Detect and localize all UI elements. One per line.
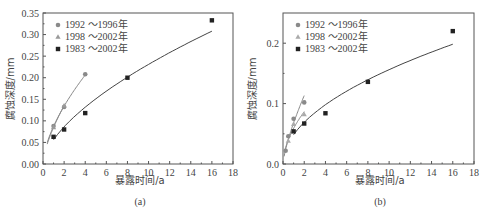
data-point-square — [62, 127, 66, 131]
x-tick-label: 12 — [165, 167, 175, 178]
x-tick-label: 2 — [302, 167, 307, 178]
x-tick-label: 18 — [469, 167, 479, 178]
y-tick-label: 0.05 — [22, 137, 40, 148]
panel-caption: (a) — [134, 196, 145, 208]
data-point-triangle — [295, 34, 300, 39]
x-axis-label: 暴露时间/a — [355, 174, 405, 186]
charts-figure: 0246810121416180.000.050.100.150.200.250… — [0, 0, 483, 217]
chart-panel-a: 0246810121416180.000.050.100.150.200.250… — [4, 8, 238, 209]
data-point-circle — [291, 116, 296, 121]
data-point-square — [125, 76, 129, 80]
data-point-triangle — [291, 121, 296, 126]
x-tick-label: 14 — [186, 167, 196, 178]
y-axis-label: 腐蚀深度/mm — [246, 58, 258, 121]
x-tick-label: 2 — [62, 167, 67, 178]
legend-entry: 1998 ～2002年 — [65, 30, 128, 42]
data-point-circle — [296, 23, 301, 28]
y-tick-label: 0.2 — [267, 38, 280, 49]
data-point-triangle — [55, 34, 60, 39]
data-point-square — [56, 47, 60, 51]
y-tick-label: 0.1 — [267, 98, 280, 109]
panel-caption: (b) — [374, 196, 386, 208]
x-tick-label: 6 — [344, 167, 349, 178]
data-point-square — [51, 135, 55, 139]
fit-curve — [294, 44, 453, 135]
x-tick-label: 12 — [405, 167, 415, 178]
legend-entry: 1992 ～1996年 — [65, 18, 128, 30]
x-tick-label: 16 — [207, 167, 217, 178]
data-point-square — [83, 111, 87, 115]
data-point-square — [302, 121, 306, 125]
data-point-square — [451, 29, 455, 33]
x-tick-label: 6 — [104, 167, 109, 178]
data-point-square — [366, 80, 370, 84]
y-tick-label: 0.25 — [22, 51, 40, 62]
data-point-square — [291, 129, 295, 133]
data-point-circle — [283, 148, 288, 153]
legend-entry: 1983 ～2002年 — [65, 42, 128, 54]
legend-entry: 1983 ～2002年 — [305, 42, 368, 54]
data-point-square — [323, 111, 327, 115]
x-tick-label: 0 — [281, 167, 286, 178]
x-tick-label: 4 — [323, 167, 328, 178]
y-tick-label: 0.0 — [267, 159, 280, 170]
data-point-circle — [83, 72, 88, 77]
data-point-square — [210, 18, 214, 22]
y-tick-label: 0.30 — [22, 29, 40, 40]
chart-panel-b: 0246810121416180.00.10.2暴露时间/a腐蚀深度/mm(b)… — [246, 13, 479, 208]
data-point-triangle — [286, 138, 291, 143]
x-axis-label: 暴露时间/a — [115, 174, 165, 186]
fit-curve — [47, 75, 85, 143]
y-tick-label: 0.35 — [22, 8, 40, 19]
y-tick-label: 0.20 — [22, 72, 40, 83]
y-tick-label: 0.00 — [22, 159, 40, 170]
data-point-square — [296, 47, 300, 51]
data-point-circle — [302, 100, 307, 105]
data-point-circle — [56, 23, 61, 28]
x-tick-label: 18 — [228, 167, 238, 178]
x-tick-label: 14 — [427, 167, 437, 178]
y-tick-label: 0.15 — [22, 94, 40, 105]
x-tick-label: 16 — [448, 167, 458, 178]
x-tick-label: 0 — [41, 167, 46, 178]
legend-entry: 1998 ～2002年 — [305, 30, 368, 42]
x-tick-label: 4 — [83, 167, 88, 178]
data-point-circle — [286, 134, 291, 139]
y-tick-label: 0.10 — [22, 115, 40, 126]
legend-entry: 1992 ～1996年 — [305, 18, 368, 30]
y-axis-label: 腐蚀深度/mm — [4, 58, 16, 121]
